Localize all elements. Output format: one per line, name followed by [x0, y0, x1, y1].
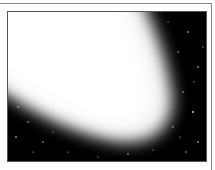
starfield — [8, 12, 207, 162]
comet-photo — [7, 11, 207, 162]
